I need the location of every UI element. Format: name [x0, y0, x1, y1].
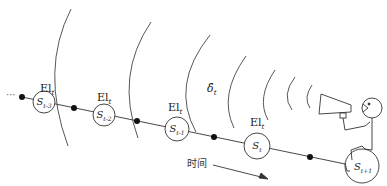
el-label-sub: t	[180, 108, 183, 116]
el-label-t: Elt	[250, 116, 264, 131]
state-sub: t-2	[103, 115, 111, 122]
state-base: S	[36, 96, 43, 107]
state-label-t+1: St+1	[354, 161, 372, 174]
wave-arc-6	[287, 77, 295, 110]
chain-dot	[211, 134, 217, 140]
time-axis-label: 时间	[187, 155, 207, 170]
megaphone-icon	[319, 94, 351, 114]
state-sub: t+1	[361, 167, 372, 174]
chain-dot	[71, 105, 77, 111]
el-label-sub: t	[52, 89, 55, 97]
el-label-text: El	[250, 116, 262, 129]
state-sub: t	[259, 146, 261, 153]
wave-arc-4	[228, 56, 246, 128]
state-base: S	[252, 140, 259, 151]
state-label-t-2: St-2	[96, 109, 111, 122]
signal-sub: t	[214, 89, 217, 97]
wave-arc-1	[55, 9, 71, 146]
leading-ellipsis: ···	[6, 89, 16, 100]
signal-base: δ̂	[207, 82, 214, 95]
signal-label: δ̂t	[207, 82, 216, 97]
el-label-text: El	[168, 101, 180, 114]
wave-arc-2	[129, 22, 151, 138]
chain-dot	[134, 118, 140, 124]
el-label-sub: t	[109, 98, 112, 106]
state-sub: t-1	[176, 129, 184, 136]
state-label-t: St	[252, 140, 261, 153]
state-base: S	[96, 109, 103, 120]
state-sub: t-3	[43, 102, 51, 109]
wave-arc-7	[307, 85, 312, 108]
state-base: S	[169, 123, 176, 134]
state-label-t-3: St-3	[36, 96, 51, 109]
el-label-t-2: Elt	[97, 91, 111, 106]
el-label-text: El	[40, 82, 52, 95]
chain-dot	[19, 94, 25, 100]
wave-arc-5	[263, 70, 275, 120]
state-label-t-1: St-1	[169, 123, 184, 136]
time-arrow	[213, 165, 268, 179]
el-label-text: El	[97, 91, 109, 104]
el-label-t-1: Elt	[168, 101, 182, 116]
chain-dot	[307, 154, 313, 160]
state-base: S	[354, 161, 361, 172]
el-label-sub: t	[262, 123, 265, 131]
